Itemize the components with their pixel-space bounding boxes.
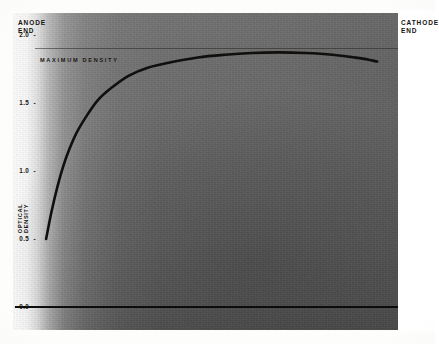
y-axis-tick-mark: - [31, 167, 36, 174]
y-axis-tick-value: 1.0 [19, 167, 29, 174]
cathode-end-label: CATHODE END [401, 19, 439, 35]
y-axis-tick-2-0: 2.0- [14, 31, 36, 38]
cathode-end-label-line2: END [401, 27, 417, 34]
anode-end-label-line1: ANODE [18, 19, 46, 26]
y-axis-tick-value: 2.0 [19, 31, 29, 38]
y-axis-tick-mark: - [31, 99, 36, 106]
maximum-density-annotation: MAXIMUM DENSITY [40, 57, 119, 64]
y-axis-tick-0-0: 0.0- [14, 303, 36, 310]
y-axis-tick-mark: - [31, 303, 36, 310]
y-axis-tick-mark: - [31, 235, 36, 242]
cathode-end-label-line1: CATHODE [401, 19, 439, 26]
y-axis-tick-value: 1.5 [19, 99, 29, 106]
y-axis-tick-mark: - [31, 31, 36, 38]
optical-density-curve [46, 52, 377, 239]
y-axis-tick-value: 0.0 [19, 303, 29, 310]
y-axis-title-line2: DENSITY [23, 204, 29, 233]
y-axis-tick-1-5: 1.5- [14, 99, 36, 106]
y-axis-title: OPTICAL DENSITY [17, 187, 30, 249]
y-axis-tick-1-0: 1.0- [14, 167, 36, 174]
cathode-white-margin [398, 10, 435, 332]
y-axis-title-line1: OPTICAL [17, 204, 23, 233]
